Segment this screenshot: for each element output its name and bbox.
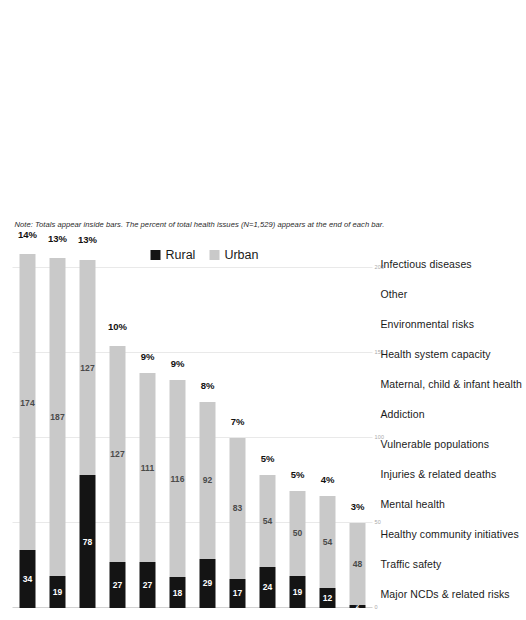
bar-percent-label: 9% bbox=[140, 351, 154, 362]
bar-value-label: 54 bbox=[322, 537, 332, 547]
bar-row[interactable]: 181169% bbox=[169, 380, 185, 608]
bar-row[interactable]: 12544% bbox=[319, 496, 335, 608]
category-label: Major NCDs & related risks bbox=[380, 588, 509, 600]
bar-value-label: 92 bbox=[202, 476, 212, 486]
bar-value-label: 48 bbox=[352, 559, 362, 569]
bar-value-label: 116 bbox=[170, 474, 184, 484]
category-label: Maternal, child & infant health bbox=[380, 378, 521, 390]
category-label: Vulnerable populations bbox=[380, 438, 489, 450]
bar-percent-label: 8% bbox=[200, 380, 214, 391]
bar-percent-label: 9% bbox=[170, 358, 184, 369]
bar-value-label: 27 bbox=[142, 580, 152, 590]
bar-value-label: 127 bbox=[110, 449, 124, 459]
bar-percent-label: 5% bbox=[290, 468, 304, 479]
legend-swatch-icon bbox=[209, 250, 219, 260]
bar-segment-rural[interactable]: 19 bbox=[49, 576, 65, 608]
bar-segment-urban[interactable]: 54 bbox=[259, 475, 275, 567]
category-label: Healthy community initiatives bbox=[380, 528, 518, 540]
bar-row[interactable]: 1918713% bbox=[49, 258, 65, 608]
plot-area: 050100150200 3417414%1918713%7812713%271… bbox=[12, 268, 372, 608]
category-label: Other bbox=[380, 288, 407, 300]
bar-value-label: 29 bbox=[202, 578, 212, 588]
category-label: Traffic safety bbox=[380, 558, 441, 570]
legend-swatch-icon bbox=[150, 250, 160, 260]
bar-segment-rural[interactable]: 27 bbox=[109, 562, 125, 608]
bar-value-label: 111 bbox=[140, 463, 154, 473]
bar-value-label: 24 bbox=[262, 583, 272, 593]
legend-item[interactable]: Rural bbox=[150, 248, 195, 262]
bar-value-label: 187 bbox=[50, 412, 64, 422]
bar-value-label: 50 bbox=[292, 528, 302, 538]
bar-percent-label: 13% bbox=[77, 234, 96, 245]
bar-segment-urban[interactable]: 127 bbox=[79, 260, 95, 476]
bar-value-label: 19 bbox=[52, 587, 62, 597]
bar-segment-rural[interactable]: 24 bbox=[259, 567, 275, 608]
bar-segment-rural[interactable]: 19 bbox=[289, 576, 305, 608]
bar-percent-label: 13% bbox=[47, 233, 66, 244]
bar-value-label: 34 bbox=[22, 574, 32, 584]
bar-segment-rural[interactable]: 12 bbox=[319, 588, 335, 608]
bar-value-label: 12 bbox=[322, 593, 332, 603]
bar-value-label: 18 bbox=[172, 588, 182, 598]
chart-note: Note: Totals appear inside bars. The per… bbox=[14, 220, 384, 229]
bar-segment-rural[interactable]: 27 bbox=[139, 562, 155, 608]
bar-segment-rural[interactable]: 29 bbox=[199, 559, 215, 608]
bar-value-label: 127 bbox=[80, 362, 94, 372]
bar-segment-urban[interactable]: 174 bbox=[19, 254, 35, 550]
bar-value-label: 83 bbox=[232, 504, 242, 514]
bar-row[interactable]: 7812713% bbox=[79, 260, 95, 608]
bar-row[interactable]: 2712710% bbox=[109, 346, 125, 608]
value-axis-tick-label: 0 bbox=[374, 604, 377, 610]
bar-row[interactable]: 24545% bbox=[259, 475, 275, 608]
category-label: Injuries & related deaths bbox=[380, 468, 496, 480]
bar-series-group: 3417414%1918713%7812713%2712710%271119%1… bbox=[12, 268, 372, 608]
bar-segment-rural[interactable]: 2 bbox=[349, 605, 365, 608]
bar-value-label: 27 bbox=[112, 580, 122, 590]
bar-value-label: 19 bbox=[292, 587, 302, 597]
category-label: Health system capacity bbox=[380, 348, 490, 360]
bar-row[interactable]: 271119% bbox=[139, 373, 155, 608]
bar-row[interactable]: 19505% bbox=[289, 491, 305, 608]
legend-label: Rural bbox=[165, 248, 195, 262]
legend-item[interactable]: Urban bbox=[209, 248, 258, 262]
bar-row[interactable]: 2483% bbox=[349, 523, 365, 608]
bar-segment-urban[interactable]: 83 bbox=[229, 438, 245, 579]
bar-segment-rural[interactable]: 17 bbox=[229, 579, 245, 608]
bar-value-label: 174 bbox=[20, 397, 34, 407]
bar-segment-rural[interactable]: 78 bbox=[79, 475, 95, 608]
bar-percent-label: 10% bbox=[107, 321, 126, 332]
bar-segment-urban[interactable]: 187 bbox=[49, 258, 65, 576]
bar-value-label: 17 bbox=[232, 589, 242, 599]
bar-percent-label: 5% bbox=[260, 453, 274, 464]
bar-segment-rural[interactable]: 18 bbox=[169, 577, 185, 608]
bar-percent-label: 7% bbox=[230, 416, 244, 427]
chart-legend: RuralUrban bbox=[150, 140, 164, 248]
category-label: Infectious diseases bbox=[380, 258, 471, 270]
bar-segment-rural[interactable]: 34 bbox=[19, 550, 35, 608]
bar-segment-urban[interactable]: 50 bbox=[289, 491, 305, 576]
bar-row[interactable]: 29928% bbox=[199, 402, 215, 608]
bar-percent-label: 4% bbox=[320, 473, 334, 484]
bar-segment-urban[interactable]: 92 bbox=[199, 402, 215, 558]
bar-value-label: 54 bbox=[262, 516, 272, 526]
bar-percent-label: 3% bbox=[350, 501, 364, 512]
bar-row[interactable]: 3417414% bbox=[19, 254, 35, 608]
bar-segment-urban[interactable]: 54 bbox=[319, 496, 335, 588]
bar-segment-urban[interactable]: 116 bbox=[169, 380, 185, 577]
category-label: Mental health bbox=[380, 498, 444, 510]
bar-row[interactable]: 17837% bbox=[229, 438, 245, 608]
category-label: Addiction bbox=[380, 408, 424, 420]
bar-percent-label: 14% bbox=[17, 229, 36, 240]
category-label: Environmental risks bbox=[380, 318, 474, 330]
bar-segment-urban[interactable]: 48 bbox=[349, 523, 365, 605]
bar-segment-urban[interactable]: 111 bbox=[139, 373, 155, 562]
legend-label: Urban bbox=[224, 248, 258, 262]
category-axis-labels: Major NCDs & related risksTraffic safety… bbox=[378, 268, 526, 608]
bar-segment-urban[interactable]: 127 bbox=[109, 346, 125, 562]
bar-value-label: 78 bbox=[82, 537, 92, 547]
